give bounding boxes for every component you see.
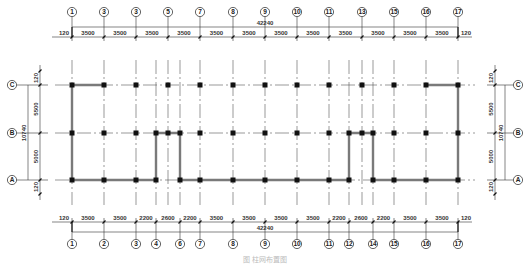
- column-grid-plan: 4224013357891011131516171203500350035003…: [0, 0, 530, 265]
- row-segment-dimension: 5000: [488, 149, 494, 163]
- wall-stair-east: [349, 133, 373, 180]
- axis-bubble-bottom-label: 12: [345, 240, 353, 247]
- axis-bubble-bottom-label: 6: [178, 240, 182, 247]
- figure-caption: 图 柱网布置图: [243, 255, 287, 264]
- row-segment-dimension: 120: [488, 181, 494, 192]
- bottom-segment-dimension: 120: [59, 215, 70, 221]
- axis-bubble-top-label: 7: [198, 8, 202, 15]
- axis-bubble-top-label: 3: [102, 8, 106, 15]
- axis-bubble-bottom-label: 4: [154, 240, 158, 247]
- column: [424, 178, 429, 183]
- column: [371, 178, 376, 183]
- bottom-segment-dimension: 3500: [210, 215, 224, 221]
- bottom-segment-dimension: 3500: [274, 215, 288, 221]
- column: [347, 131, 352, 136]
- column: [154, 178, 159, 183]
- column: [263, 83, 268, 88]
- axis-bubble-bottom-label: 9: [263, 240, 267, 247]
- bottom-segment-dimension: 2600: [161, 215, 175, 221]
- axis-bubble-top-label: 8: [231, 8, 235, 15]
- bottom-dimension-chain: 4224012346789101112141516171203500350022…: [52, 215, 472, 249]
- axis-bubble-top-label: 17: [454, 8, 462, 15]
- axis-bubble-bottom-label: 3: [134, 240, 138, 247]
- top-total-dimension: 42240: [257, 20, 274, 26]
- column: [360, 83, 365, 88]
- axis-bubble-top-label: 15: [390, 8, 398, 15]
- row-segment-dimension: 5500: [33, 102, 39, 116]
- column: [456, 83, 461, 88]
- axis-bubble-top-label: 10: [293, 8, 301, 15]
- axis-bubble-bottom-label: 1: [70, 240, 74, 247]
- axis-bubble-bottom-label: 17: [454, 240, 462, 247]
- top-segment-dimension: 3500: [403, 30, 417, 36]
- column: [102, 83, 107, 88]
- axis-bubble-bottom-label: 14: [369, 240, 377, 247]
- top-segment-dimension: 3500: [177, 30, 191, 36]
- axis-bubble-row-label: A: [516, 176, 521, 183]
- column: [70, 83, 75, 88]
- column: [327, 83, 332, 88]
- row-segment-dimension: 5000: [33, 149, 39, 163]
- bottom-segment-dimension: 3500: [403, 215, 417, 221]
- axis-bubble-bottom-label: 8: [231, 240, 235, 247]
- column: [166, 83, 171, 88]
- top-segment-dimension: 3500: [306, 30, 320, 36]
- axis-bubble-top-label: 11: [326, 8, 333, 15]
- axis-bubble-row-label: C: [10, 81, 15, 88]
- axis-bubble-top-label: 13: [358, 8, 366, 15]
- column: [134, 83, 139, 88]
- column: [295, 178, 300, 183]
- column: [102, 131, 107, 136]
- axis-bubble-top-label: 9: [263, 8, 267, 15]
- axis-bubble-row-label: B: [516, 129, 521, 136]
- column: [178, 131, 183, 136]
- column: [424, 131, 429, 136]
- top-segment-dimension: 3500: [113, 30, 127, 36]
- column: [456, 178, 461, 183]
- column: [198, 178, 203, 183]
- axis-bubble-bottom-label: 16: [422, 240, 430, 247]
- column: [456, 131, 461, 136]
- column: [70, 131, 75, 136]
- axis-bubble-bottom-label: 7: [198, 240, 202, 247]
- column: [392, 131, 397, 136]
- column: [198, 83, 203, 88]
- top-segment-dimension: 3500: [81, 30, 95, 36]
- bottom-segment-dimension: 2200: [139, 215, 153, 221]
- row-segment-dimension: 120: [488, 72, 494, 83]
- top-segment-dimension: 120: [59, 30, 70, 36]
- bottom-segment-dimension: 2200: [332, 215, 346, 221]
- column: [263, 131, 268, 136]
- bottom-segment-dimension: 120: [461, 215, 472, 221]
- right-dimension-chain: CBA1205500500012010740: [487, 65, 523, 200]
- wall-east: [373, 85, 458, 180]
- column: [263, 178, 268, 183]
- column: [371, 131, 376, 136]
- column: [102, 178, 107, 183]
- row-segment-dimension: 120: [33, 72, 39, 83]
- top-segment-dimension: 120: [461, 30, 472, 36]
- bottom-segment-dimension: 2200: [377, 215, 391, 221]
- column: [424, 83, 429, 88]
- column: [327, 178, 332, 183]
- column: [154, 131, 159, 136]
- top-segment-dimension: 3500: [371, 30, 385, 36]
- column: [295, 131, 300, 136]
- bottom-segment-dimension: 3500: [435, 215, 449, 221]
- bottom-segment-dimension: 2600: [354, 215, 368, 221]
- top-segment-dimension: 3500: [242, 30, 256, 36]
- top-segment-dimension: 3500: [145, 30, 159, 36]
- column: [392, 83, 397, 88]
- axis-bubble-top-label: 16: [422, 8, 430, 15]
- column: [327, 131, 332, 136]
- top-segment-dimension: 3500: [339, 30, 353, 36]
- axis-bubble-row-label: A: [10, 176, 15, 183]
- column: [295, 83, 300, 88]
- bottom-segment-dimension: 3500: [113, 215, 127, 221]
- top-segment-dimension: 3500: [435, 30, 449, 36]
- row-segment-dimension: 5500: [488, 102, 494, 116]
- top-segment-dimension: 3500: [274, 30, 288, 36]
- axis-bubble-top-label: 3: [134, 8, 138, 15]
- column: [178, 178, 183, 183]
- column: [166, 131, 171, 136]
